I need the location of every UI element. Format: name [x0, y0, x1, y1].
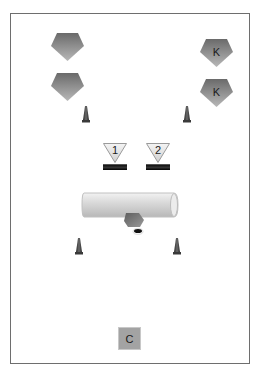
coach-label: C: [126, 333, 134, 345]
pentagon-label: K: [200, 38, 233, 68]
pentagon-label: [51, 32, 84, 62]
marker-2: 2: [146, 143, 170, 171]
marker-1: 1: [103, 143, 127, 171]
bar-icon: [146, 164, 170, 170]
cone-4: [173, 238, 181, 255]
player-pentagon-2: [51, 72, 84, 102]
coach-marker: C: [118, 327, 141, 350]
cone-icon: [183, 106, 191, 123]
marker-label: 1: [103, 143, 127, 157]
bar-icon: [103, 164, 127, 170]
cone-icon: [173, 238, 181, 255]
cone-icon: [75, 238, 83, 255]
cone-icon: [82, 106, 90, 123]
player-icon: [122, 212, 146, 236]
cone-1: [82, 106, 90, 123]
pentagon-label: K: [200, 78, 233, 108]
marker-label: 2: [146, 143, 170, 157]
player-pentagon-1: [51, 32, 84, 62]
player-pentagon-k-1: K: [200, 38, 233, 68]
cone-2: [183, 106, 191, 123]
player-pentagon-k-2: K: [200, 78, 233, 108]
player-under-tube: [122, 212, 146, 236]
pentagon-label: [51, 72, 84, 102]
cone-3: [75, 238, 83, 255]
